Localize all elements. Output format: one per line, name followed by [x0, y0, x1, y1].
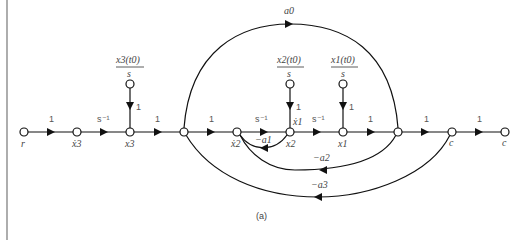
node-x3dot	[73, 128, 81, 136]
feedforward-branch-a0	[184, 24, 398, 128]
node-r	[20, 128, 28, 136]
arrow-icon	[339, 102, 347, 110]
svg-text:−a1: −a1	[255, 134, 272, 145]
feedback-branch-a1: −a1	[240, 134, 287, 152]
svg-text:1: 1	[136, 102, 141, 112]
node-x1	[339, 128, 347, 136]
svg-text:−a2: −a2	[313, 152, 330, 163]
arrow-icon	[260, 144, 268, 152]
svg-text:c: c	[502, 137, 507, 148]
svg-text:−a3: −a3	[311, 179, 328, 190]
svg-text:ẋ3: ẋ3	[71, 138, 81, 149]
svg-text:1: 1	[349, 102, 354, 112]
svg-text:c: c	[449, 137, 454, 148]
gain-label: 1	[155, 114, 160, 124]
node-x3	[126, 128, 134, 136]
initial-condition-x1: x1(t0) s 1	[330, 54, 358, 128]
svg-text:ẋ2: ẋ2	[230, 138, 240, 149]
forward-gain-labels: 1 s⁻¹ 1 1 s⁻¹ s⁻¹ 1 1 1	[49, 114, 482, 124]
arrow-icon	[207, 128, 215, 136]
gain-label: 1	[49, 114, 54, 124]
gain-label: 1	[424, 114, 429, 124]
node-n8	[394, 128, 402, 136]
feedback-branch-a3: −a3	[186, 135, 450, 201]
svg-text:ẋ1: ẋ1	[292, 116, 302, 127]
svg-text:x1: x1	[337, 138, 347, 149]
arrow-icon	[47, 128, 55, 136]
svg-text:s: s	[287, 68, 291, 79]
arrow-icon	[475, 128, 483, 136]
gain-label: s⁻¹	[97, 114, 110, 124]
svg-text:r: r	[21, 138, 25, 149]
signal-flow-graph: 1 s⁻¹ 1 1 s⁻¹ s⁻¹ 1 1 1 a0 x3(t0) s 1 x2…	[0, 0, 522, 240]
arrow-icon	[126, 102, 134, 110]
gain-label: s⁻¹	[312, 114, 325, 124]
svg-text:x1(t0): x1(t0)	[330, 54, 356, 66]
node-c2	[501, 128, 509, 136]
svg-text:x2: x2	[285, 138, 295, 149]
node-c1	[448, 128, 456, 136]
svg-text:x2(t0): x2(t0)	[276, 54, 302, 66]
arrow-icon	[319, 166, 327, 174]
figure-caption: (a)	[256, 211, 267, 221]
arrow-icon	[100, 128, 108, 136]
arrow-icon	[154, 128, 162, 136]
gain-label-a0: a0	[284, 5, 294, 16]
arrow-icon	[285, 20, 293, 28]
svg-text:1: 1	[296, 102, 301, 112]
node-n4	[180, 128, 188, 136]
svg-text:x3: x3	[124, 138, 134, 149]
node-x2	[286, 128, 294, 136]
initial-condition-x3: x3(t0) s 1	[115, 54, 144, 128]
arrow-icon	[314, 193, 322, 201]
gain-label: 1	[209, 114, 214, 124]
gain-label: 1	[368, 114, 373, 124]
svg-text:x3(t0): x3(t0)	[115, 54, 141, 66]
arrow-icon	[421, 128, 429, 136]
arrow-icon	[367, 128, 375, 136]
svg-text:s: s	[341, 68, 345, 79]
gain-label: 1	[477, 114, 482, 124]
initial-condition-x2: x2(t0) s 1 ẋ1	[276, 54, 304, 128]
svg-text:s: s	[127, 68, 131, 79]
arrow-icon	[286, 102, 294, 110]
node-x2dot	[233, 128, 241, 136]
arrow-icon	[313, 128, 321, 136]
gain-label: s⁻¹	[255, 114, 268, 124]
